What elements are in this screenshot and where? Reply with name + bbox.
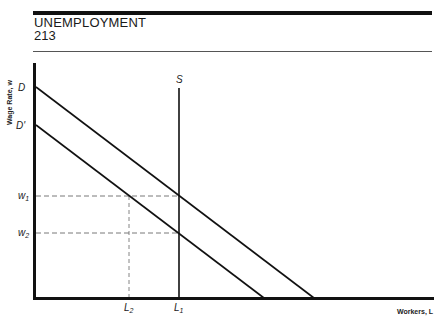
label-w1: w1	[18, 190, 29, 202]
demand-curve-d	[36, 87, 314, 298]
label-s: S	[176, 74, 183, 85]
demand-curve-d-prime	[36, 125, 264, 298]
label-l1: L1	[174, 302, 184, 314]
label-d: D	[18, 82, 25, 93]
x-axis-title: Workers, L	[397, 308, 434, 316]
label-d-prime: D'	[16, 120, 26, 131]
labor-market-chart: D D' w1 w2 S L2 L1 Workers, L Wage Rate,…	[0, 0, 444, 328]
y-axis-title: Wage Rate, w	[6, 80, 14, 125]
label-l2: L2	[124, 302, 134, 314]
label-w2: w2	[18, 227, 29, 239]
